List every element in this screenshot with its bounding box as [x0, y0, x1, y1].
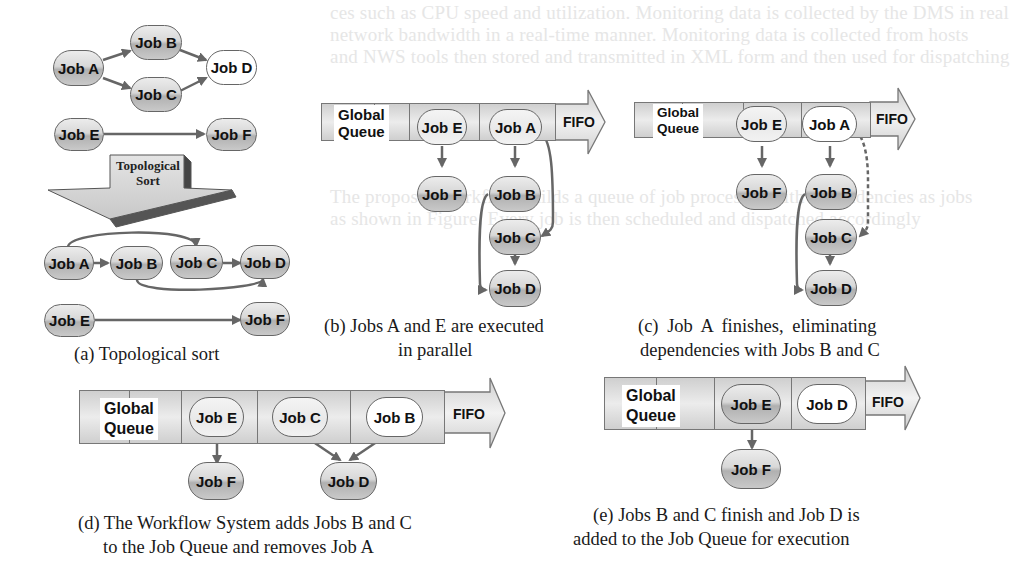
queue-label-line-1: Global — [626, 386, 676, 406]
fifo-label-b: FIFO — [563, 114, 595, 130]
child-job-b: Job B — [489, 176, 541, 212]
queue-job-c: Job C — [272, 397, 328, 437]
child-job-b: Job B — [805, 174, 857, 210]
queue-label-line-2: Queue — [104, 419, 154, 439]
child-job-c: Job C — [805, 219, 857, 255]
queue-job-e: Job E — [189, 397, 244, 437]
queue-job-e: Job E — [417, 109, 467, 145]
child-job-d: Job D — [489, 270, 541, 307]
sorted-job-d: Job D — [240, 245, 290, 279]
fifo-label-d: FIFO — [453, 406, 485, 422]
fifo-label-e: FIFO — [872, 394, 904, 410]
sort-label-line-1: Topological — [108, 158, 188, 173]
caption-a: (a) Topological sort — [74, 343, 219, 365]
child-job-f: Job F — [188, 462, 244, 500]
queue-job-d: Job D — [797, 384, 857, 424]
child-job-f: Job F — [721, 449, 781, 489]
child-job-f: Job F — [736, 174, 787, 210]
job-node-e: Job E — [54, 118, 104, 151]
job-node-a: Job A — [53, 50, 104, 86]
caption-b-line-2: in parallel — [398, 339, 472, 361]
child-job-d: Job D — [805, 270, 857, 306]
child-job-d: Job D — [320, 462, 377, 500]
caption-c-line-1: (c) Job A finishes, eliminating — [638, 315, 877, 337]
caption-d-line-2: to the Job Queue and removes Job A — [103, 536, 374, 558]
global-queue-label-e: Global Queue — [622, 385, 680, 427]
queue-job-e: Job E — [721, 384, 781, 424]
queue-label-line-2: Queue — [626, 406, 676, 426]
queue-label-line-1: Global — [104, 399, 154, 419]
queue-label-line-1: Global — [657, 105, 699, 121]
child-job-c: Job C — [489, 219, 541, 255]
caption-e-line-1: (e) Jobs B and C finish and Job D is — [593, 504, 860, 526]
job-node-d: Job D — [206, 50, 257, 85]
sorted-job-b: Job B — [110, 246, 163, 280]
queue-job-b: Job B — [366, 397, 423, 437]
sort-label-line-2: Sort — [108, 173, 188, 188]
global-queue-label-b: Global Queue — [334, 105, 389, 141]
queue-label-line-2: Queue — [338, 123, 385, 140]
queue-label-line-2: Queue — [657, 121, 699, 137]
job-node-c: Job C — [130, 77, 182, 112]
child-job-f: Job F — [417, 176, 467, 212]
topological-sort-label: Topological Sort — [108, 158, 188, 188]
sorted-job-f: Job F — [240, 302, 290, 336]
sorted-job-e: Job E — [44, 304, 95, 337]
job-node-b: Job B — [130, 25, 182, 60]
job-node-f: Job F — [206, 118, 257, 151]
global-queue-label-c: Global Queue — [653, 104, 703, 138]
sorted-job-c: Job C — [170, 245, 223, 279]
caption-e-line-2: added to the Job Queue for execution — [573, 528, 849, 550]
queue-label-line-1: Global — [338, 106, 385, 123]
queue-job-e: Job E — [736, 106, 787, 142]
global-queue-label-d: Global Queue — [100, 398, 158, 440]
queue-job-a: Job A — [802, 106, 857, 142]
caption-c-line-2: dependencies with Jobs B and C — [640, 339, 880, 361]
caption-b-line-1: (b) Jobs A and E are executed — [324, 315, 544, 337]
fifo-label-c: FIFO — [876, 111, 908, 127]
queue-job-a: Job A — [489, 109, 542, 145]
sorted-job-a: Job A — [44, 246, 94, 280]
caption-d-line-1: (d) The Workflow System adds Jobs B and … — [78, 512, 412, 534]
